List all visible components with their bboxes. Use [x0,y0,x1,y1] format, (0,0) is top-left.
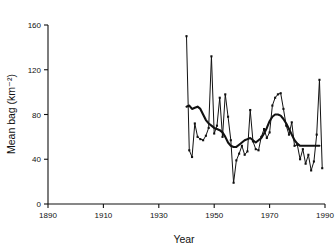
data-point-marker [191,156,193,158]
data-point-marker [224,93,226,95]
data-point-marker [216,125,218,127]
data-point-marker [293,145,295,147]
data-point-marker [238,153,240,155]
chart-figure: 04080120160 189019101930195019701990 Yea… [0,0,336,250]
data-point-marker [241,145,243,147]
y-tick-label: 80 [32,111,41,120]
data-point-marker [233,182,235,184]
data-point-marker [210,55,212,57]
x-tick-label: 1890 [39,211,57,220]
y-tick-label: 160 [28,21,42,30]
data-point-marker [235,159,237,161]
data-point-marker [302,148,304,150]
x-tick-label: 1910 [95,211,113,220]
data-point-marker [277,93,279,95]
data-point-marker [313,160,315,162]
data-point-marker [227,116,229,118]
x-tick-label: 1930 [150,211,168,220]
chart-canvas: 04080120160 189019101930195019701990 Yea… [0,0,336,250]
data-point-marker [321,167,323,169]
y-axis-ticks [44,25,48,204]
x-tick-label: 1990 [316,211,334,220]
x-axis-tick-labels: 189019101930195019701990 [39,211,334,220]
data-point-marker [255,148,257,150]
data-point-marker [299,158,301,160]
data-point-marker [213,132,215,134]
y-axis-tick-labels: 04080120160 [28,21,42,209]
x-axis-title: Year [173,233,195,245]
data-point-marker [208,127,210,129]
data-point-marker [194,122,196,124]
data-point-marker [249,109,251,111]
data-point-marker [280,92,282,94]
y-tick-label: 40 [32,155,41,164]
data-point-marker [199,138,201,140]
data-point-marker [219,97,221,99]
x-tick-label: 1970 [261,211,279,220]
data-point-marker [282,108,284,110]
data-point-marker [221,136,223,138]
y-tick-label: 0 [37,200,42,209]
y-tick-label: 120 [28,66,42,75]
x-axis-ticks [48,204,325,208]
data-point-marker [288,134,290,136]
data-point-marker [197,136,199,138]
annual-series-line [187,36,323,183]
data-point-marker [246,150,248,152]
data-point-marker [230,139,232,141]
data-point-marker [305,163,307,165]
data-point-marker [266,137,268,139]
data-point-marker [310,169,312,171]
data-point-marker [185,35,187,37]
data-point-marker [291,121,293,123]
data-point-marker [188,149,190,151]
data-point-marker [318,79,320,81]
data-point-marker [316,134,318,136]
y-axis-title: Mean bag (km⁻²) [5,74,17,154]
x-tick-label: 1950 [205,211,223,220]
data-point-marker [307,154,309,156]
data-point-marker [202,139,204,141]
data-point-marker [244,154,246,156]
annual-series-markers [185,35,323,184]
data-point-marker [269,131,271,133]
data-point-marker [271,105,273,107]
smoothed-trend-line [187,106,320,147]
data-point-marker [205,135,207,137]
data-point-marker [274,97,276,99]
data-point-marker [257,149,259,151]
